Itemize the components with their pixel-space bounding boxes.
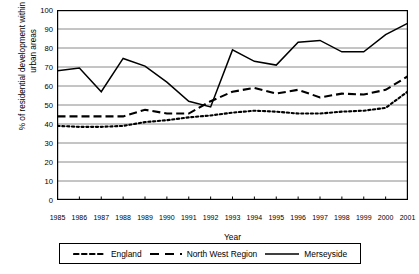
x-tick-label: 2001 (400, 214, 416, 221)
y-tick-label: 50 (45, 101, 53, 110)
y-tick-label: 30 (45, 139, 53, 148)
legend-label: North West Region (187, 249, 258, 259)
x-tick-label: 1998 (334, 214, 350, 221)
x-tick-label: 1999 (356, 214, 372, 221)
series-line-england (58, 92, 408, 127)
legend-swatch-dashed (149, 250, 183, 258)
chart-legend: EnglandNorth West RegionMerseyside (59, 243, 361, 264)
y-tick-label: 40 (45, 120, 53, 129)
x-tick-label: 1992 (203, 214, 219, 221)
y-tick-label: 90 (45, 25, 53, 34)
y-tick-label: 60 (45, 82, 53, 91)
x-tick-label: 1985 (50, 214, 66, 221)
x-tick-label: 1991 (181, 214, 197, 221)
legend-swatch-dotted (73, 250, 107, 258)
legend-label: England (111, 249, 142, 259)
x-tick-label: 1994 (247, 214, 263, 221)
x-tick-label: 1993 (225, 214, 241, 221)
legend-item: Merseyside (264, 249, 347, 259)
y-tick-label: 70 (45, 63, 53, 72)
y-tick-label: 20 (45, 158, 53, 167)
y-axis-title: % of residential development within exis… (17, 0, 39, 131)
x-tick-label: 1986 (72, 214, 88, 221)
legend-item: North West Region (149, 249, 258, 259)
x-tick-label: 1990 (159, 214, 175, 221)
plot-area: 0102030405060708090100 19851986198719881… (57, 10, 408, 200)
chart-figure: % of residential development within exis… (0, 0, 419, 274)
x-tick-label: 1987 (93, 214, 109, 221)
x-tick-label: 1988 (115, 214, 131, 221)
legend-item: England (73, 249, 142, 259)
line-chart-svg (57, 10, 408, 200)
y-tick-label: 80 (45, 44, 53, 53)
y-tick-label: 100 (40, 6, 53, 15)
legend-swatch-solid (264, 250, 300, 258)
legend-label: Merseyside (304, 249, 347, 259)
x-axis-title: Year (57, 232, 408, 242)
x-tick-label: 1997 (312, 214, 328, 221)
x-tick-label: 1995 (268, 214, 284, 221)
x-tick-label: 1996 (290, 214, 306, 221)
x-tick-label: 1989 (137, 214, 153, 221)
y-tick-label: 0 (49, 196, 53, 205)
x-tick-label: 2000 (378, 214, 394, 221)
y-tick-label: 10 (45, 177, 53, 186)
